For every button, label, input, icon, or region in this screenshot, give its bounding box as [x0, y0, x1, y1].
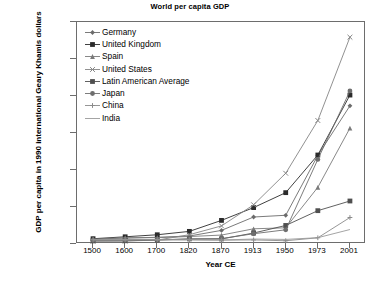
data-point [251, 215, 256, 220]
x-axis-title: Year CE [76, 260, 365, 269]
legend-item-latin-american-average[interactable]: Latin American Average [84, 75, 219, 87]
legend-item-united-states[interactable]: United States [84, 63, 219, 75]
data-point [219, 228, 224, 233]
legend-marker-square-icon [84, 39, 101, 50]
legend-marker-triangle-icon [84, 51, 101, 62]
data-point [348, 126, 353, 131]
data-point [348, 199, 353, 204]
legend-marker-square-icon [84, 76, 101, 87]
legend-marker-diamond-icon [84, 27, 101, 38]
series-spain [91, 126, 353, 242]
legend-label: United States [101, 64, 152, 75]
legend-label: Latin American Average [101, 76, 189, 87]
legend-item-spain[interactable]: Spain [84, 51, 219, 63]
data-point [315, 157, 320, 162]
data-point [348, 89, 353, 94]
cropped-caption [6, 276, 246, 284]
legend-label: Japan [101, 88, 125, 99]
data-point [348, 215, 353, 220]
legend-label: India [101, 113, 120, 124]
legend-item-china[interactable]: China [84, 100, 219, 112]
legend-label: Spain [101, 51, 123, 62]
data-point [283, 171, 288, 176]
y-tick-mark [70, 243, 76, 244]
legend-marker-circle-icon [84, 88, 101, 99]
data-point [283, 190, 288, 195]
legend-marker-plus-icon [84, 100, 101, 111]
legend-label: Germany [101, 27, 136, 38]
data-point [283, 227, 288, 232]
data-point [315, 118, 320, 123]
data-point [251, 238, 256, 243]
chart-title: World per capita GDP [0, 2, 380, 11]
y-axis-title: GDP per capita in 1990 international Gea… [34, 2, 54, 242]
legend-item-united-kingdom[interactable]: United Kingdom [84, 38, 219, 50]
legend-marker-x-icon [84, 64, 101, 75]
legend-item-india[interactable]: India [84, 112, 219, 124]
data-point [219, 218, 224, 223]
legend-marker-line-icon [84, 113, 101, 124]
chart-figure: World per capita GDP GDP per capita in 1… [0, 0, 380, 284]
legend-item-germany[interactable]: Germany [84, 26, 219, 38]
data-point [315, 208, 320, 213]
data-point [283, 213, 288, 218]
data-point [348, 103, 353, 108]
data-point [348, 35, 353, 40]
chart-legend: GermanyUnited KingdomSpainUnited StatesL… [84, 26, 219, 124]
legend-item-japan[interactable]: Japan [84, 87, 219, 99]
y-axis-title-text: GDP per capita in 1990 international Gea… [34, 2, 44, 242]
legend-label: United Kingdom [101, 39, 161, 50]
legend-label: China [101, 100, 124, 111]
data-point [251, 231, 256, 236]
data-point [315, 185, 320, 190]
